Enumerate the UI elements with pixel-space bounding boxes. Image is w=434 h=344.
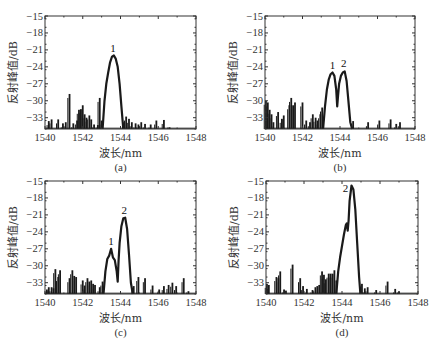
- spike-side: [290, 269, 291, 294]
- x-tick-label: 1548: [186, 297, 207, 308]
- spike: [57, 119, 59, 129]
- y-tick-label: −24: [247, 61, 264, 72]
- spike: [59, 270, 61, 294]
- x-tick-label: 1540: [35, 132, 56, 143]
- spike-side: [287, 109, 288, 129]
- spike-side: [56, 281, 57, 294]
- spike-side: [98, 102, 99, 129]
- peak-label: 1: [330, 59, 336, 71]
- spike: [172, 283, 174, 294]
- spike-side: [289, 102, 290, 129]
- x-tick-label: 1540: [255, 132, 276, 143]
- spike: [283, 115, 285, 129]
- spike-side: [320, 112, 321, 129]
- spike-side: [298, 282, 299, 294]
- x-tick-label: 1546: [148, 132, 169, 143]
- spike-side: [276, 116, 277, 129]
- x-axis-title: 波长/nm: [318, 147, 362, 160]
- spike-side: [276, 282, 277, 294]
- spike: [292, 265, 294, 294]
- chart-a-svg: −15−18−21−24−27−30−331540154215441546154…: [0, 0, 217, 172]
- spike-side: [67, 98, 68, 129]
- spike-side: [74, 281, 75, 294]
- spike: [299, 278, 301, 294]
- spike-side: [300, 106, 301, 129]
- x-axis-title: 波长/nm: [320, 312, 364, 325]
- plot-frame: [266, 181, 418, 294]
- x-tick-label: 1548: [405, 132, 426, 143]
- spike-side: [293, 106, 294, 129]
- peak-label: 2: [343, 182, 349, 194]
- y-tick-label: −30: [27, 260, 43, 271]
- spike-side: [274, 281, 275, 294]
- peak-label: 1: [110, 42, 116, 54]
- chart-c-svg: −15−18−21−24−27−30−331540154215441546154…: [0, 172, 217, 344]
- chart-d-svg: −15−18−21−24−27−30−331540154215441546154…: [217, 172, 434, 344]
- spike: [90, 119, 92, 129]
- x-tick-label: 1548: [408, 297, 429, 308]
- y-tick-label: −24: [27, 226, 44, 237]
- spike: [138, 277, 140, 294]
- spike-side: [58, 274, 59, 294]
- spike: [163, 120, 165, 129]
- noise-spikes: [47, 94, 171, 129]
- spike: [69, 94, 71, 129]
- x-tick-label: 1546: [367, 132, 388, 143]
- x-axis-title: 波长/nm: [99, 312, 143, 325]
- y-tick-label: −27: [247, 78, 263, 89]
- spike-side: [81, 284, 82, 294]
- y-axis-title: 反射峰值/dB: [226, 41, 240, 104]
- x-tick-label: 1542: [72, 297, 93, 308]
- spike: [390, 119, 392, 129]
- spike-side: [182, 282, 183, 294]
- spike-side: [77, 114, 78, 129]
- spike-side: [328, 278, 329, 294]
- y-tick-label: −30: [248, 260, 264, 271]
- spike-side: [136, 281, 137, 294]
- spike: [325, 279, 327, 294]
- y-tick-label: −15: [27, 176, 43, 187]
- spike: [128, 119, 130, 129]
- spike: [86, 118, 88, 129]
- subplot-label: (d): [336, 326, 349, 339]
- spike-side: [282, 119, 283, 129]
- peak-curve: [336, 186, 360, 295]
- spike-side: [269, 118, 270, 129]
- y-tick-label: −15: [27, 11, 43, 22]
- x-tick-label: 1540: [256, 297, 277, 308]
- y-tick-label: −27: [27, 243, 43, 254]
- y-tick-label: −33: [27, 277, 43, 288]
- spike-side: [322, 279, 323, 294]
- x-tick-label: 1542: [292, 132, 313, 143]
- y-tick-label: −18: [27, 192, 43, 203]
- spike: [279, 271, 281, 294]
- y-tick-label: −33: [247, 112, 263, 123]
- peak-label: 2: [341, 57, 347, 69]
- chart-b-svg: −15−18−21−24−27−30−331540154215441546154…: [217, 0, 434, 172]
- spike: [302, 102, 304, 129]
- spike-side: [320, 275, 321, 294]
- noise-spikes: [265, 265, 400, 294]
- spike: [294, 102, 296, 129]
- y-tick-label: −18: [247, 27, 263, 38]
- y-tick-label: −18: [248, 192, 264, 203]
- y-axis-title: 反射峰值/dB: [227, 206, 241, 269]
- y-tick-label: −30: [27, 95, 43, 106]
- spike: [51, 119, 53, 129]
- spike: [125, 117, 127, 129]
- y-tick-label: −27: [248, 243, 264, 254]
- y-tick-label: −18: [27, 27, 43, 38]
- peak-label: 1: [108, 235, 114, 247]
- spike-side: [53, 273, 54, 294]
- y-tick-label: −24: [248, 226, 265, 237]
- spike: [94, 285, 96, 294]
- spike: [69, 278, 71, 294]
- spike-side: [334, 284, 335, 294]
- spike-side: [327, 278, 328, 294]
- x-tick-label: 1546: [148, 297, 169, 308]
- subplot-b: −15−18−21−24−27−30−331540154215441546154…: [217, 0, 434, 172]
- spike-side: [311, 118, 312, 129]
- noise-spikes: [264, 98, 401, 129]
- y-tick-label: −21: [247, 44, 263, 55]
- spike: [387, 282, 389, 294]
